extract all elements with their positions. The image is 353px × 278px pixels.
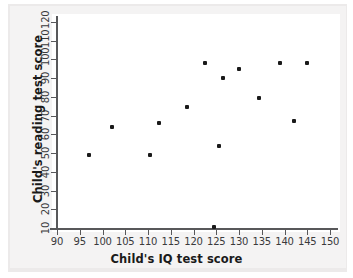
y-axis-title: Child's reading test score xyxy=(31,19,45,219)
data-point xyxy=(257,96,261,100)
x-tick xyxy=(57,230,58,235)
x-tick xyxy=(262,230,263,235)
data-point xyxy=(292,119,296,123)
y-tick xyxy=(51,41,56,42)
x-tick-label: 135 xyxy=(253,236,272,247)
x-tick-label: 90 xyxy=(51,236,63,247)
y-axis-line xyxy=(56,16,58,230)
plot-canvas xyxy=(52,14,340,232)
data-point xyxy=(157,121,161,125)
y-tick xyxy=(51,97,56,98)
x-tick xyxy=(125,230,126,235)
x-tick xyxy=(148,230,149,235)
scatter-plot-figure: 9095100105110115120125130135140145150 10… xyxy=(0,0,353,278)
data-point xyxy=(212,225,216,229)
x-tick-label: 100 xyxy=(93,236,112,247)
x-tick-label: 125 xyxy=(207,236,226,247)
x-tick-label: 105 xyxy=(116,236,135,247)
y-tick xyxy=(51,153,56,154)
x-tick-label: 115 xyxy=(162,236,181,247)
x-tick xyxy=(285,230,286,235)
y-tick xyxy=(51,172,56,173)
x-tick-label: 140 xyxy=(275,236,294,247)
x-tick-label: 95 xyxy=(74,236,86,247)
x-tick xyxy=(239,230,240,235)
y-tick xyxy=(51,78,56,79)
y-tick xyxy=(51,116,56,117)
y-tick xyxy=(51,228,56,229)
data-point xyxy=(203,61,207,65)
data-point xyxy=(87,153,91,157)
y-tick-label: 10 xyxy=(40,221,51,235)
y-tick xyxy=(51,134,56,135)
data-point xyxy=(221,76,225,80)
x-tick-label: 110 xyxy=(139,236,158,247)
data-point xyxy=(237,67,241,71)
data-point xyxy=(305,61,309,65)
x-tick xyxy=(194,230,195,235)
x-tick xyxy=(307,230,308,235)
data-point xyxy=(278,61,282,65)
x-tick xyxy=(330,230,331,235)
x-tick xyxy=(80,230,81,235)
data-point xyxy=(217,144,221,148)
y-tick xyxy=(51,191,56,192)
x-tick xyxy=(171,230,172,235)
data-point xyxy=(110,125,114,129)
y-tick xyxy=(51,209,56,210)
x-tick-label: 150 xyxy=(321,236,340,247)
x-tick-label: 120 xyxy=(184,236,203,247)
x-axis-title: Child's IQ test score xyxy=(0,252,353,266)
y-tick xyxy=(51,59,56,60)
x-tick xyxy=(103,230,104,235)
x-tick-label: 130 xyxy=(230,236,249,247)
x-tick-label: 145 xyxy=(298,236,317,247)
y-tick xyxy=(51,22,56,23)
data-point xyxy=(148,153,152,157)
x-tick xyxy=(216,230,217,235)
data-point xyxy=(185,105,189,109)
